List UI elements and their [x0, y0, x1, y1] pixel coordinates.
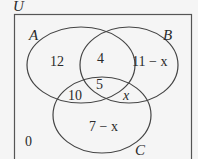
region-only-b: 11 − x	[132, 54, 167, 69]
region-a-b-c: 5	[96, 77, 103, 92]
region-only-a: 12	[50, 54, 64, 69]
region-outside: 0	[25, 134, 32, 149]
venn-diagram: U A B C 12 4 11 − x 5 10 x 7 − x 0	[0, 0, 198, 159]
universe-label: U	[13, 0, 25, 14]
region-b-c-only: x	[122, 88, 130, 103]
set-b-label: B	[163, 27, 172, 43]
region-only-c: 7 − x	[89, 119, 118, 134]
region-a-b-only: 4	[97, 51, 104, 66]
set-c-label: C	[135, 142, 146, 158]
set-a-label: A	[28, 27, 39, 43]
region-a-c-only: 10	[68, 88, 82, 103]
